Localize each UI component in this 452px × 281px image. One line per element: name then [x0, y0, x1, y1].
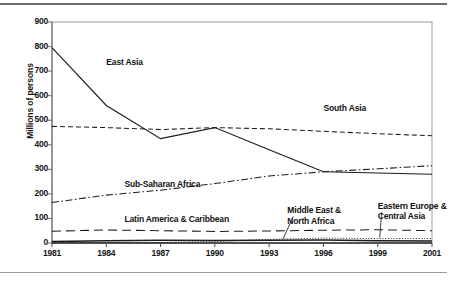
series-line-south-asia: [52, 126, 432, 135]
series-label-middle-east: Middle East & North Africa: [287, 205, 341, 226]
plot-frame: [52, 22, 432, 243]
chart-series-group: [52, 48, 432, 243]
series-line-middle-east-north-africa: [52, 240, 432, 241]
series-label-east-asia: East Asia: [106, 57, 143, 68]
chart-axes: [52, 22, 432, 243]
series-label-eastern-europe: Eastern Europe & Central Asia: [378, 201, 447, 222]
series-label-south-asia: South Asia: [323, 103, 366, 114]
series-label-latin-america-caribbean: Latin America & Caribbean: [124, 214, 229, 225]
series-line-sub-saharan-africa: [52, 166, 432, 203]
series-line-latin-america-caribbean: [52, 230, 432, 232]
series-label-sub-saharan-africa: Sub-Saharan Africa: [124, 179, 200, 190]
